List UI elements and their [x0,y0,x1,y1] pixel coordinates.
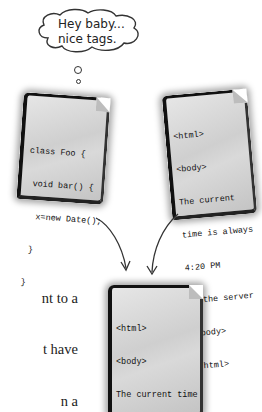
jsp-code: <html> <body> The current time on the se… [116,302,198,412]
jsp-document: <html> <body> The current time on the se… [108,285,203,412]
body-text-fragment: nt to a t have n a rules ge m a ce. otes… [0,255,78,412]
folded-corner-icon [189,285,203,299]
